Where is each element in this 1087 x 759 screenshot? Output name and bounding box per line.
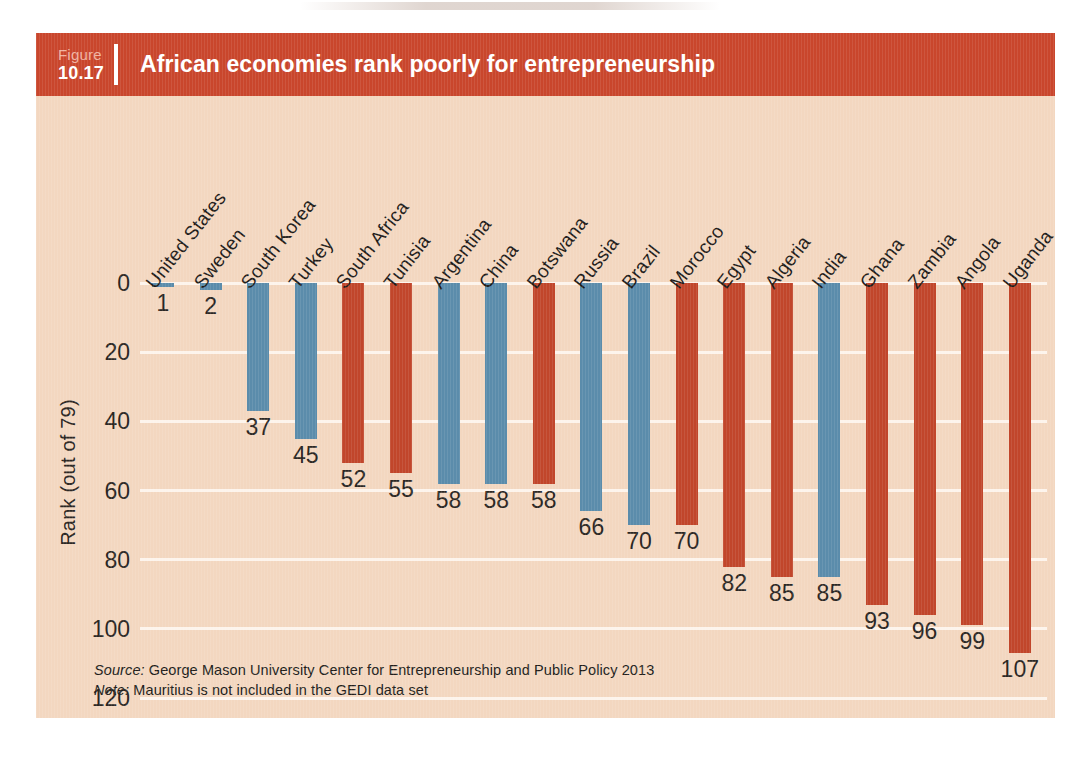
note-line: Note: Mauritius is not included in the G… bbox=[94, 680, 994, 700]
bar-value-china: 58 bbox=[483, 487, 509, 514]
y-tick-60: 60 bbox=[58, 477, 130, 504]
bar-value-zambia: 96 bbox=[912, 618, 938, 645]
bar-turkey[interactable] bbox=[295, 283, 317, 439]
bar-value-south-africa: 52 bbox=[341, 466, 367, 493]
bar-value-brazil: 70 bbox=[626, 528, 652, 555]
gridline-80 bbox=[140, 558, 1047, 561]
bar-value-russia: 66 bbox=[579, 514, 605, 541]
bar-value-south-korea: 37 bbox=[245, 414, 271, 441]
bar-botswana[interactable] bbox=[533, 283, 555, 484]
figure-card: Figure 10.17 African economies rank poor… bbox=[36, 33, 1055, 718]
y-tick-100: 100 bbox=[58, 615, 130, 642]
bar-value-angola: 99 bbox=[959, 628, 985, 655]
bar-angola[interactable] bbox=[961, 283, 983, 625]
figure-header-band: Figure 10.17 African economies rank poor… bbox=[36, 33, 1055, 96]
figure-title: African economies rank poorly for entrep… bbox=[118, 33, 1055, 96]
bar-south-africa[interactable] bbox=[342, 283, 364, 463]
bar-argentina[interactable] bbox=[438, 283, 460, 484]
bar-value-tunisia: 55 bbox=[388, 476, 414, 503]
note-text: Mauritius is not included in the GEDI da… bbox=[129, 682, 428, 698]
bar-value-morocco: 70 bbox=[674, 528, 700, 555]
source-label: Source: bbox=[94, 662, 145, 678]
bar-egypt[interactable] bbox=[723, 283, 745, 567]
y-tick-20: 20 bbox=[58, 339, 130, 366]
source-line: Source: George Mason University Center f… bbox=[94, 660, 994, 680]
bar-value-egypt: 82 bbox=[721, 570, 747, 597]
bar-morocco[interactable] bbox=[676, 283, 698, 525]
bar-algeria[interactable] bbox=[771, 283, 793, 577]
bar-value-ghana: 93 bbox=[864, 608, 890, 635]
footnotes: Source: George Mason University Center f… bbox=[94, 660, 994, 700]
y-tick-40: 40 bbox=[58, 408, 130, 435]
figure-number-block: Figure 10.17 bbox=[36, 33, 114, 96]
bar-uganda[interactable] bbox=[1009, 283, 1031, 653]
bar-value-sweden: 2 bbox=[204, 293, 217, 320]
y-tick-80: 80 bbox=[58, 546, 130, 573]
bar-tunisia[interactable] bbox=[390, 283, 412, 473]
bar-value-argentina: 58 bbox=[436, 487, 462, 514]
bar-zambia[interactable] bbox=[914, 283, 936, 615]
bar-value-algeria: 85 bbox=[769, 580, 795, 607]
bar-value-india: 85 bbox=[817, 580, 843, 607]
bar-ghana[interactable] bbox=[866, 283, 888, 605]
bar-value-united-states: 1 bbox=[157, 290, 170, 317]
plot-canvas: 1United States2Sweden37South Korea45Turk… bbox=[140, 96, 1047, 718]
plot-region: Rank (out of 79) 020406080100120 1United… bbox=[36, 96, 1055, 718]
bar-south-korea[interactable] bbox=[247, 283, 269, 411]
bar-china[interactable] bbox=[485, 283, 507, 484]
bar-russia[interactable] bbox=[580, 283, 602, 511]
bar-india[interactable] bbox=[818, 283, 840, 577]
bar-brazil[interactable] bbox=[628, 283, 650, 525]
y-tick-0: 0 bbox=[58, 270, 130, 297]
figure-number: 10.17 bbox=[58, 63, 114, 83]
bar-value-botswana: 58 bbox=[531, 487, 557, 514]
figure-label-word: Figure bbox=[58, 46, 114, 63]
source-text: George Mason University Center for Entre… bbox=[145, 662, 655, 678]
bar-value-turkey: 45 bbox=[293, 442, 319, 469]
y-axis-tick-labels: 020406080100120 bbox=[58, 96, 130, 718]
scan-artifact bbox=[300, 2, 720, 10]
bar-value-uganda: 107 bbox=[1001, 656, 1039, 683]
note-label: Note: bbox=[94, 682, 129, 698]
category-label-india: India bbox=[808, 246, 851, 293]
